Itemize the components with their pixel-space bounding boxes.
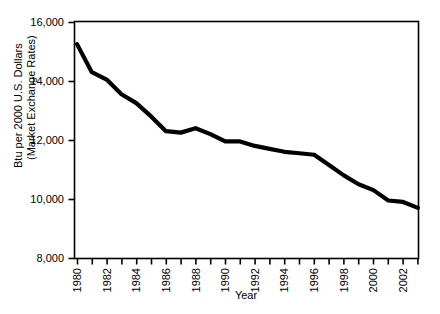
chart-figure: 8,000 10,000 12,000 14,000 16,000 Btu pe… — [0, 0, 440, 314]
y-axis-title-line1: Btu per 2000 U.S. Dollars — [12, 43, 24, 168]
y-tick-label-16000: 16,000 — [30, 16, 64, 28]
x-tick-label-1994: 1994 — [278, 268, 290, 292]
x-tick-label-1984: 1984 — [130, 268, 142, 292]
x-tick-label-2002: 2002 — [397, 268, 409, 292]
y-axis-title: Btu per 2000 U.S. Dollars (Market Exchan… — [12, 35, 37, 168]
x-tick-label-1980: 1980 — [71, 268, 83, 292]
x-tick-label-1988: 1988 — [190, 268, 202, 292]
line-chart: 8,000 10,000 12,000 14,000 16,000 Btu pe… — [0, 0, 440, 314]
y-tick-label-10000: 10,000 — [30, 193, 64, 205]
x-tick-label-1990: 1990 — [219, 268, 231, 292]
y-tick-label-8000: 8,000 — [36, 252, 64, 264]
x-tick-label-1982: 1982 — [101, 268, 113, 292]
chart-background — [0, 0, 440, 314]
x-tick-label-2000: 2000 — [367, 268, 379, 292]
y-axis-title-line2: (Market Exchange Rates) — [25, 35, 37, 160]
x-tick-label-1986: 1986 — [160, 268, 172, 292]
x-axis-title: Year — [235, 289, 258, 301]
x-tick-label-1996: 1996 — [308, 268, 320, 292]
x-tick-label-1998: 1998 — [338, 268, 350, 292]
